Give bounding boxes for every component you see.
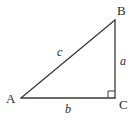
side-label-b: b	[65, 103, 71, 115]
vertex-label-b: B	[117, 4, 126, 17]
vertex-label-a: A	[6, 92, 15, 105]
vertex-label-c: C	[119, 98, 128, 111]
side-label-a: a	[120, 55, 126, 67]
side-label-c: c	[57, 46, 62, 58]
right-triangle-figure: A B C a b c	[0, 0, 140, 120]
